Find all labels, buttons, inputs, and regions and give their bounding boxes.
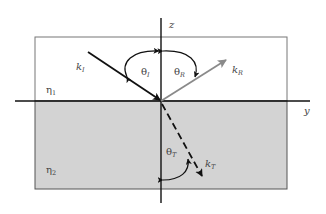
- z-axis-label: z: [168, 19, 175, 30]
- reflection-refraction-diagram: z y η1 η2 kI kR kT θI θR θT: [0, 0, 326, 214]
- y-axis-label: y: [303, 105, 310, 116]
